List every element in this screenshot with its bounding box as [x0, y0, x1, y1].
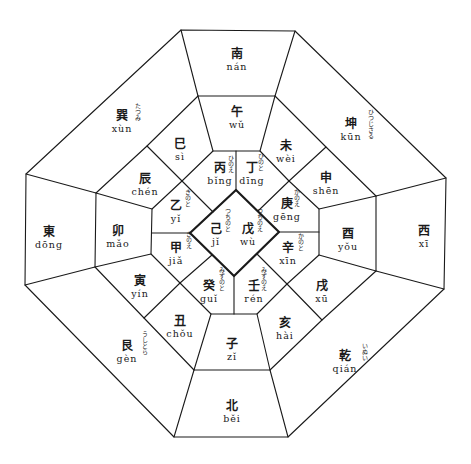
- pinyin-label: jǐ: [210, 236, 222, 248]
- direction-diagram: 南 nán 坤 kūn ひつじさる 西 xī 乾 qián いぬい 北 běi …: [0, 0, 471, 464]
- pinyin-label: qián: [333, 363, 358, 375]
- kanji-label: 丑: [166, 314, 193, 328]
- pinyin-label: wǔ: [229, 119, 245, 131]
- furigana-label: ひのえ: [227, 155, 234, 173]
- furigana-label: きのと: [184, 189, 191, 207]
- stem-ding: 丁 dīng ひのと: [239, 161, 264, 187]
- direction-southwest: 坤 kūn ひつじさる: [341, 117, 362, 143]
- direction-south: 南 nán: [227, 47, 248, 73]
- stem-wu: 戊 wù つちのえ: [240, 222, 256, 248]
- stem-gui: 癸 guǐ みずのと: [200, 279, 218, 305]
- furigana-label: いぬい: [361, 343, 368, 361]
- kanji-label: 巽: [112, 109, 133, 123]
- branch-mao: 卯 mǎo: [106, 224, 129, 250]
- branch-shen: 申 shēn: [313, 171, 340, 197]
- pinyin-label: chǒu: [166, 328, 193, 340]
- branch-chou: 丑 chǒu: [166, 314, 193, 340]
- pinyin-label: dīng: [239, 175, 264, 187]
- middle-ring: [95, 96, 376, 370]
- pinyin-label: gèn: [117, 353, 138, 365]
- pinyin-label: wèi: [276, 153, 296, 165]
- kanji-label: 子: [226, 337, 238, 351]
- pinyin-label: yǒu: [338, 241, 358, 253]
- kanji-label: 寅: [131, 274, 149, 288]
- furigana-label: ひつじさる: [367, 109, 374, 139]
- stem-xin: 辛 xīn かのと: [279, 241, 297, 267]
- furigana-label: つちのえ: [256, 208, 263, 232]
- kanji-label: 亥: [276, 316, 294, 330]
- branch-si: 巳 sì: [174, 137, 186, 163]
- furigana-label: みずのえ: [260, 267, 267, 291]
- kanji-label: 乙: [170, 199, 182, 213]
- pinyin-label: jiǎ: [169, 255, 184, 267]
- branch-wei: 未 wèi: [276, 139, 296, 165]
- kanji-label: 北: [223, 399, 241, 413]
- divider-line: [376, 271, 444, 289]
- divider-line: [198, 96, 213, 151]
- branch-wu: 午 wǔ: [229, 105, 245, 131]
- pinyin-label: yǐ: [170, 213, 182, 225]
- divider-line: [376, 178, 446, 196]
- kanji-label: 坤: [341, 117, 362, 131]
- furigana-label: たつみ: [134, 103, 141, 121]
- divider-line: [174, 370, 194, 437]
- kanji-label: 未: [276, 139, 296, 153]
- furigana-label: きのえ: [185, 231, 192, 249]
- furigana-label: ひのと: [257, 153, 264, 171]
- kanji-label: 戊: [240, 222, 256, 236]
- kanji-label: 辛: [279, 241, 297, 255]
- pinyin-label: chén: [131, 186, 158, 198]
- pinyin-label: xīn: [279, 255, 297, 267]
- kanji-label: 申: [313, 171, 340, 185]
- branch-hai: 亥 hài: [276, 316, 294, 342]
- kanji-label: 癸: [200, 279, 218, 293]
- kanji-label: 巳: [174, 137, 186, 151]
- pinyin-label: xùn: [112, 123, 133, 135]
- direction-northwest: 乾 qián いぬい: [333, 349, 358, 375]
- divider-line: [25, 267, 95, 285]
- pinyin-label: nán: [227, 61, 248, 73]
- kanji-label: 乾: [333, 349, 358, 363]
- furigana-label: うしとら: [141, 331, 148, 355]
- stem-jia: 甲 jiǎ きのえ: [169, 241, 184, 267]
- kanji-label: 南: [227, 47, 248, 61]
- direction-southeast: 巽 xùn たつみ: [112, 109, 133, 135]
- furigana-label: みずのと: [218, 267, 225, 291]
- pinyin-label: yín: [131, 288, 149, 300]
- kanji-label: 己: [210, 222, 222, 236]
- divider-line: [257, 314, 270, 370]
- divider-line: [270, 370, 288, 437]
- divider-line: [275, 31, 295, 96]
- kanji-label: 午: [229, 105, 245, 119]
- divider-line: [194, 314, 211, 370]
- pinyin-label: wù: [240, 236, 256, 248]
- pinyin-label: zǐ: [226, 351, 238, 363]
- direction-north: 北 běi: [223, 399, 241, 425]
- stem-ji: 己 jǐ つちのと: [210, 222, 222, 248]
- kanji-label: 酉: [338, 227, 358, 241]
- divider-line: [319, 255, 376, 271]
- stem-geng: 庚 gēng かのえ: [273, 197, 301, 223]
- divider-line: [26, 174, 96, 193]
- branch-xu: 戌 xū: [315, 279, 328, 305]
- stem-bing: 丙 bǐng ひのえ: [207, 161, 232, 187]
- direction-east: 東 dōng: [35, 225, 63, 251]
- stem-yi: 乙 yǐ きのと: [170, 199, 182, 225]
- kanji-label: 甲: [169, 241, 184, 255]
- outer-octagon: [25, 30, 446, 437]
- pinyin-label: rén: [244, 293, 263, 305]
- pinyin-label: xū: [315, 293, 328, 305]
- pinyin-label: shēn: [313, 185, 340, 197]
- branch-you: 酉 yǒu: [338, 227, 358, 253]
- pinyin-label: dōng: [35, 239, 63, 251]
- pinyin-label: bǐng: [207, 175, 232, 187]
- pinyin-label: xī: [418, 238, 430, 250]
- divider-line: [260, 96, 275, 151]
- kanji-label: 西: [418, 224, 430, 238]
- stem-ren: 壬 rén みずのえ: [244, 279, 263, 305]
- divider-line: [319, 196, 376, 209]
- pinyin-label: sì: [174, 151, 186, 163]
- pinyin-label: gēng: [273, 211, 301, 223]
- pinyin-label: kūn: [341, 131, 362, 143]
- divider-line: [181, 30, 198, 96]
